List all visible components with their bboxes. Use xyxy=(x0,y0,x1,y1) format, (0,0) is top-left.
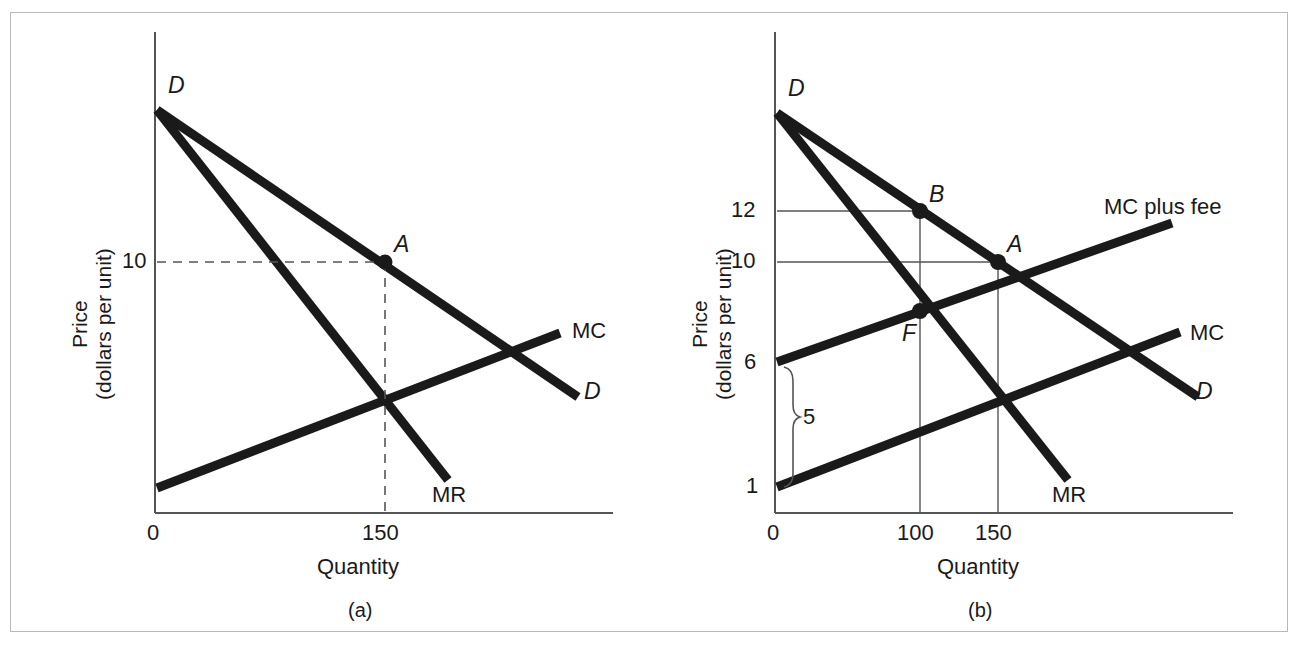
panel-b-point-f-label: F xyxy=(902,322,916,345)
panel-b-x-tick-0: 0 xyxy=(767,522,779,544)
panel-b-point-f-marker xyxy=(912,303,928,319)
panel-b-x-tick-100: 100 xyxy=(897,522,934,544)
panel-b-x-tick-150: 150 xyxy=(975,522,1012,544)
panel-b-marginal-cost-plus-fee-label: MC plus fee xyxy=(1104,196,1221,218)
panel-b-brace xyxy=(784,367,800,487)
panel-b-marginal-cost-curve xyxy=(777,332,1180,487)
panel-a-caption: (a) xyxy=(348,600,372,620)
panel-b-y-tick-12: 12 xyxy=(731,199,755,221)
panel-b-point-b-marker xyxy=(912,203,928,219)
panel-b-brace-label: 5 xyxy=(803,406,815,428)
panel-b-point-b-label: B xyxy=(929,183,944,206)
panel-b-marginal-cost-label: MC xyxy=(1190,322,1224,344)
panel-b-y-tick-10: 10 xyxy=(731,250,755,272)
panel-b-marginal-revenue-label: MR xyxy=(1052,484,1086,506)
panel-b-y-tick-6: 6 xyxy=(744,351,756,373)
panel-b-demand-end-label: D xyxy=(1196,380,1213,403)
panel-b-point-a-label: A xyxy=(1007,233,1022,256)
panel-b-demand-curve xyxy=(777,113,1198,397)
panel-b-demand-top-label: D xyxy=(788,77,805,100)
panel-b-plot xyxy=(0,0,1298,560)
panel-b-point-a-marker xyxy=(990,254,1006,270)
panel-b-y-axis-label-line1: Price xyxy=(688,300,711,348)
panel-b-marginal-revenue-curve xyxy=(777,113,1068,480)
panel-b-y-axis-label: Price (dollars per unit) xyxy=(688,214,736,434)
figure-container: Price (dollars per unit) 10 0 150 D D MC… xyxy=(0,0,1298,647)
panel-b-y-tick-1: 1 xyxy=(746,475,758,497)
panel-b-caption: (b) xyxy=(968,600,992,620)
panel-b-x-axis-label: Quantity xyxy=(937,556,1019,578)
